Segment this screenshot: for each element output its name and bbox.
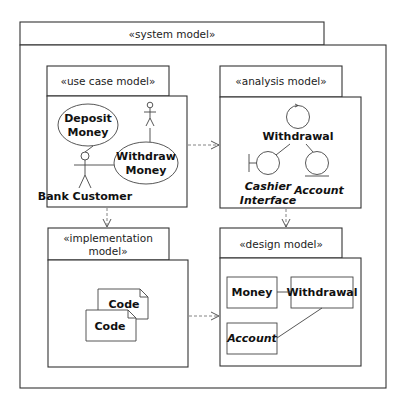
code-artifact-front-icon[interactable]: Code: [86, 310, 136, 341]
analysis-model-stereotype: «analysis model»: [235, 75, 326, 87]
design-model-package[interactable]: «design model» Money Withdrawal Account: [220, 228, 361, 366]
svg-text:Deposit: Deposit: [64, 112, 112, 125]
actor-bank-customer-label: Bank Customer: [38, 190, 133, 203]
implementation-model-stereotype-line1: «implementation: [63, 232, 153, 244]
use-case-model-stereotype: «use case model»: [61, 75, 156, 87]
entity-object-label: Account: [293, 184, 344, 197]
analysis-model-package[interactable]: «analysis model» Withdrawal Cashier Inte…: [220, 66, 361, 208]
svg-text:Withdraw: Withdraw: [116, 150, 176, 163]
system-model-stereotype: «system model»: [129, 28, 216, 40]
control-object-label: Withdrawal: [262, 130, 333, 143]
svg-text:Money: Money: [126, 164, 167, 177]
design-model-stereotype: «design model»: [239, 238, 323, 250]
svg-text:Money: Money: [232, 286, 273, 299]
svg-text:Money: Money: [68, 126, 109, 139]
svg-text:Code: Code: [109, 298, 140, 311]
model-diagram: «system model» «use case model» Deposit …: [0, 0, 407, 406]
boundary-object-label-line2: Interface: [240, 194, 297, 207]
implementation-model-stereotype-line2: model»: [88, 245, 127, 257]
implementation-model-package[interactable]: «implementation model» Code Code: [48, 228, 188, 367]
svg-text:Code: Code: [95, 320, 126, 333]
boundary-object-label-line1: Cashier: [245, 180, 292, 193]
svg-text:Withdrawal: Withdrawal: [286, 286, 357, 299]
svg-text:Account: Account: [226, 332, 277, 345]
use-case-model-package[interactable]: «use case model» Deposit Money Withdraw …: [38, 66, 187, 207]
